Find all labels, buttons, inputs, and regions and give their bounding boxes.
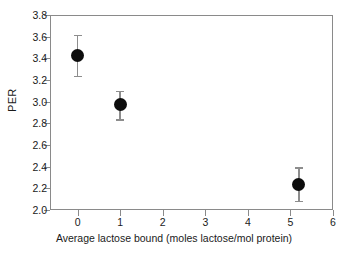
y-tick-label: 2.4 (32, 161, 47, 172)
y-tick-label: 2.0 (32, 205, 47, 216)
y-axis-label: PER (6, 88, 18, 112)
x-tick-label: 1 (117, 217, 123, 228)
y-tick-label: 2.6 (32, 140, 47, 151)
y-tick-label: 3.0 (32, 96, 47, 107)
x-tick-label: 4 (245, 217, 251, 228)
error-bar-cap-lower (295, 201, 303, 203)
error-bar-cap-lower (74, 76, 82, 78)
x-axis-label: Average lactose bound (moles lactose/mol… (0, 232, 348, 244)
error-bar-cap-upper (116, 91, 124, 93)
error-bar-cap-upper (295, 167, 303, 169)
figure-container: 2.02.22.42.62.83.03.23.43.63.8 0123456 P… (0, 0, 348, 257)
data-marker (71, 49, 84, 62)
y-tick-label: 3.4 (32, 53, 47, 64)
x-tick-label: 5 (288, 217, 294, 228)
y-tick-label: 3.8 (32, 10, 47, 21)
y-tick-label: 2.8 (32, 118, 47, 129)
data-marker (292, 178, 305, 191)
x-tick-label: 6 (330, 217, 336, 228)
data-marker (114, 98, 127, 111)
x-tick-label: 2 (160, 217, 166, 228)
y-tick-label: 2.2 (32, 183, 47, 194)
error-bar-cap-upper (74, 35, 82, 37)
x-tick-label: 0 (75, 217, 81, 228)
error-bar-cap-lower (116, 119, 124, 121)
plot-area: 2.02.22.42.62.83.03.23.43.63.8 0123456 (50, 15, 333, 210)
y-tick-label: 3.2 (32, 75, 47, 86)
y-tick-label: 3.6 (32, 31, 47, 42)
x-tick-label: 3 (202, 217, 208, 228)
